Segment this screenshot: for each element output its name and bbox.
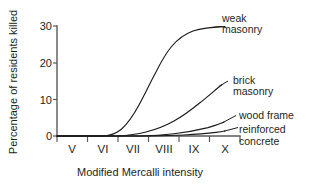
leader-line-reinforced-concrete: [224, 128, 238, 132]
x-tick-label-X: X: [221, 143, 229, 155]
x-axis-title: Modified Mercalli intensity: [77, 166, 203, 178]
x-tick-label-VI: VI: [98, 143, 109, 155]
series-label-weak-masonry-line2: masonry: [222, 23, 263, 35]
y-tick-label-0: 0: [46, 130, 52, 142]
y-tick-label-10: 10: [40, 94, 52, 106]
earthquake-casualty-chart: Percentage of residents killed 30 20 10 …: [0, 0, 309, 191]
x-tick-label-VII: VII: [126, 143, 140, 155]
chart-plot-area: Percentage of residents killed 30 20 10 …: [0, 0, 309, 191]
series-curve-weak-masonry: [57, 27, 225, 136]
x-tick-label-V: V: [68, 143, 76, 155]
y-tick-label-20: 20: [40, 57, 52, 69]
series-label-reinforced-concrete-line1: reinforced: [239, 123, 286, 135]
series-label-wood-frame: wood frame: [238, 109, 294, 121]
leader-line-brick-masonry: [219, 81, 228, 87]
series-label-brick-masonry-line2: masonry: [233, 85, 274, 97]
y-axis-title: Percentage of residents killed: [7, 10, 19, 154]
x-tick-label-IX: IX: [189, 143, 200, 155]
leader-line-wood-frame: [222, 116, 236, 124]
y-tick-label-30: 30: [40, 20, 52, 32]
x-tick-label-VIII: VIII: [155, 143, 172, 155]
series-label-reinforced-concrete-line2: concrete: [239, 135, 279, 147]
series-curve-brick-masonry: [57, 85, 222, 137]
